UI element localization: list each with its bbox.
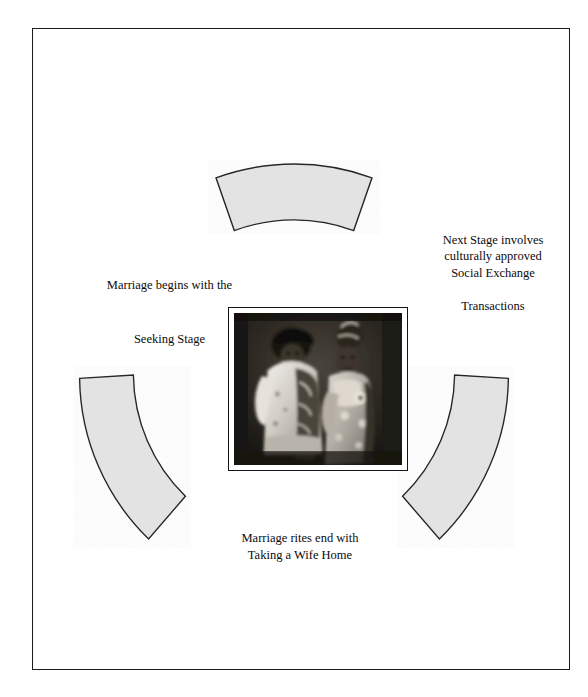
- caption-exchange-line-1: Next Stage involves culturally approved …: [443, 233, 544, 280]
- caption-taking-a-wife-home: Marriage rites end with Taking a Wife Ho…: [200, 530, 400, 564]
- caption-exchange-line-2: Transactions: [418, 298, 568, 315]
- traditional-wedding-couple-photograph: [234, 313, 402, 465]
- caption-seeking-line-1: Marriage begins with the: [62, 274, 277, 296]
- center-photograph-frame: [228, 307, 408, 471]
- caption-social-exchange: Next Stage involves culturally approved …: [418, 215, 568, 331]
- page-canvas: Marriage begins with the Seeking Stage N…: [0, 0, 588, 697]
